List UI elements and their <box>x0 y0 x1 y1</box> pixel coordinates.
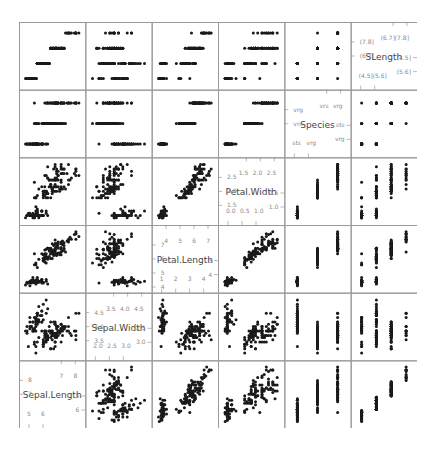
data-point <box>54 248 57 251</box>
data-point <box>117 376 120 379</box>
data-point <box>265 400 268 403</box>
data-point <box>121 412 124 415</box>
data-point <box>316 256 319 259</box>
panel-sepal-width-vs-species <box>285 293 351 361</box>
data-point <box>98 409 101 412</box>
data-point <box>230 321 233 324</box>
panel-species-vs-sepal-length <box>20 90 86 158</box>
data-point <box>42 214 45 217</box>
panel-petal-width-vs-sepal-width <box>86 158 152 226</box>
data-point <box>375 256 378 259</box>
data-point <box>296 409 299 412</box>
data-point <box>165 214 168 217</box>
data-point <box>67 101 70 104</box>
data-point <box>126 163 129 166</box>
data-point <box>191 329 194 332</box>
data-point <box>128 280 131 283</box>
data-point <box>375 341 378 344</box>
data-point <box>130 232 133 235</box>
panel-sepal-length-vs-sepal-width <box>86 361 152 428</box>
data-point <box>57 246 60 249</box>
data-point <box>243 77 246 80</box>
data-point <box>226 77 229 80</box>
data-point <box>232 323 235 326</box>
data-point <box>265 101 268 104</box>
data-point <box>360 411 363 414</box>
tick-label: 4 <box>161 283 165 290</box>
data-point <box>26 77 29 80</box>
data-point <box>104 168 107 171</box>
data-point <box>296 329 299 332</box>
data-point <box>161 143 164 146</box>
data-point <box>261 384 264 387</box>
data-point <box>113 419 116 422</box>
data-point <box>54 341 57 344</box>
data-point <box>42 260 45 263</box>
data-point <box>269 388 272 391</box>
data-point <box>54 176 57 179</box>
data-point <box>228 345 231 348</box>
data-point <box>124 279 127 282</box>
data-point <box>316 266 319 269</box>
data-point <box>26 329 29 332</box>
panel-slength-vs-slength: SLength(4.5](5.6](6.7](7.8](7.8](6.7](5.… <box>351 22 417 90</box>
data-point <box>199 47 202 50</box>
tick-label: sts <box>292 139 301 146</box>
data-point <box>119 163 122 166</box>
data-point <box>187 385 190 388</box>
data-point <box>102 408 105 411</box>
data-point <box>128 143 131 146</box>
data-point <box>252 251 255 254</box>
tick-label: (5.6] <box>397 68 411 75</box>
data-point <box>230 403 233 406</box>
data-point <box>57 174 60 177</box>
data-point <box>405 368 408 371</box>
data-point <box>60 179 63 182</box>
tick-label: vrg <box>306 139 316 147</box>
data-point <box>390 394 393 397</box>
data-point <box>375 210 378 213</box>
data-point <box>405 325 408 328</box>
data-point <box>267 378 270 381</box>
data-point <box>390 244 393 247</box>
tick-label: 5 <box>178 237 182 244</box>
data-point <box>134 397 137 400</box>
data-point <box>336 163 339 166</box>
panel-species-vs-slength <box>351 90 417 158</box>
data-point <box>271 230 274 233</box>
data-point <box>208 312 211 315</box>
data-point <box>165 77 168 80</box>
data-point <box>40 210 43 213</box>
data-point <box>36 210 39 213</box>
data-point <box>390 341 393 344</box>
data-point <box>271 47 274 50</box>
data-point <box>375 329 378 332</box>
data-point <box>390 163 393 166</box>
data-point <box>269 312 272 315</box>
data-point <box>187 345 190 348</box>
data-point <box>113 281 116 284</box>
data-point <box>106 397 109 400</box>
data-point <box>181 343 184 346</box>
data-point <box>203 316 206 319</box>
data-point <box>296 276 299 279</box>
data-point <box>390 168 393 171</box>
data-point <box>104 262 107 265</box>
data-point <box>254 62 257 65</box>
tick-label: 6 <box>76 406 80 413</box>
data-point <box>45 256 48 259</box>
data-point <box>160 318 163 321</box>
data-point <box>117 62 120 65</box>
data-point <box>55 170 58 173</box>
data-point <box>316 247 319 250</box>
data-point <box>54 334 57 337</box>
data-point <box>139 143 142 146</box>
data-point <box>98 263 101 266</box>
data-point <box>48 247 51 250</box>
data-point <box>187 47 190 50</box>
panel-petal-width-vs-sepal-length <box>20 158 86 226</box>
data-point <box>100 260 103 263</box>
data-point <box>265 246 268 249</box>
data-point <box>252 101 255 104</box>
data-point <box>124 402 127 405</box>
